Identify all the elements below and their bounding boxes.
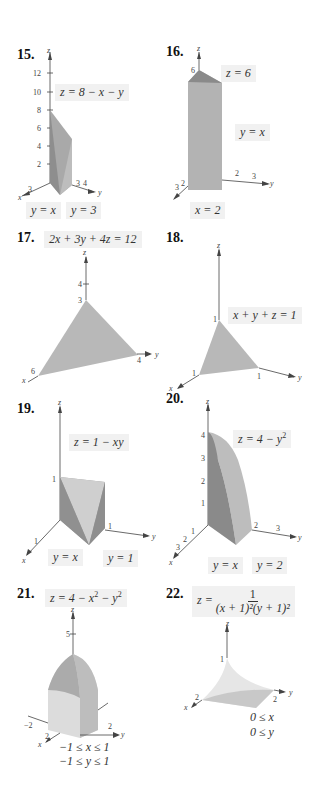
svg-text:3: 3 (201, 454, 205, 463)
svg-text:x: x (17, 193, 22, 202)
equation-label: 2x + 3y + 4z = 12 (44, 231, 142, 248)
svg-text:2: 2 (181, 179, 185, 188)
svg-text:x: x (37, 740, 42, 749)
svg-text:1: 1 (52, 475, 56, 484)
svg-text:5: 5 (66, 630, 70, 639)
svg-text:z: z (57, 398, 62, 407)
svg-text:6: 6 (37, 124, 41, 133)
svg-text:2: 2 (108, 722, 112, 731)
figure-19: 19. z 1 1 y 1 x z = 1 − xy y = x y = 1 (0, 400, 156, 580)
svg-text:3: 3 (276, 524, 280, 533)
svg-text:3: 3 (76, 179, 80, 188)
svg-text:6: 6 (31, 367, 35, 376)
svg-text:x: x (183, 703, 188, 712)
svg-text:3: 3 (252, 172, 256, 181)
svg-text:1: 1 (213, 315, 217, 324)
constraint-label: 0 ≤ x (250, 710, 274, 725)
svg-text:y: y (97, 188, 102, 197)
solid-plot: 6 z 2 3 y 2 3 (156, 0, 312, 200)
svg-text:z: z (225, 619, 230, 628)
figure-16: 16. 6 z 2 3 y 2 3 z = 6 y = x (156, 0, 312, 200)
svg-text:x: x (21, 376, 26, 385)
svg-text:y: y (297, 533, 302, 542)
svg-text:2: 2 (37, 160, 41, 169)
constraint-label: −1 ≤ x ≤ 1 (59, 740, 110, 755)
boundary-label: y = 3 (66, 202, 101, 219)
figure-18: 18. z 1 1 y 1 x x + y + z = 1 (156, 230, 312, 380)
svg-text:z: z (82, 248, 87, 257)
solid-plot: z 4 3 4 y 6 x (0, 230, 156, 380)
svg-text:4: 4 (37, 142, 41, 151)
svg-text:10: 10 (33, 88, 41, 97)
svg-text:2: 2 (201, 477, 205, 486)
svg-text:6: 6 (191, 66, 195, 75)
figure-22: 22. z 1 2 y 2 x z = 1(x + 1)²(y + 1)² 0 … (156, 580, 312, 801)
boundary-label: y = x (208, 557, 243, 574)
figure-21: 21. z 5 −2 2 y 2 x z = 4 − x2 − y2 −1 ≤ … (0, 580, 156, 801)
svg-text:2: 2 (273, 695, 277, 704)
constraint-label: −1 ≤ y ≤ 1 (59, 754, 110, 769)
boundary-label: y = 2 (252, 557, 287, 574)
svg-text:2: 2 (254, 521, 258, 530)
svg-text:1: 1 (108, 522, 112, 531)
svg-text:x: x (21, 556, 26, 565)
svg-text:1: 1 (201, 499, 205, 508)
svg-text:y: y (120, 730, 125, 739)
svg-text:x: x (168, 558, 173, 567)
boundary-label: y = 1 (103, 550, 138, 567)
boundary-label: x = 2 (190, 202, 225, 219)
svg-text:2: 2 (235, 169, 239, 178)
svg-text:1: 1 (191, 527, 195, 536)
svg-text:2: 2 (45, 732, 49, 741)
figure-20: 20. z 4 3 2 1 2 3 y 1 2 3 x z = 4 − y2 y… (156, 380, 312, 580)
svg-text:2: 2 (195, 693, 199, 702)
svg-text:3: 3 (175, 183, 179, 192)
svg-text:4: 4 (201, 431, 205, 440)
svg-text:1: 1 (34, 537, 38, 546)
svg-text:1: 1 (192, 369, 196, 378)
svg-text:y: y (288, 688, 293, 697)
solid-plot: z 4 3 2 1 2 3 y 1 2 3 x (156, 380, 312, 580)
svg-text:z: z (205, 397, 210, 406)
equation-label: z = 4 − y2 (233, 430, 291, 448)
equation-label: z = 1 − xy (69, 434, 129, 451)
svg-text:12: 12 (33, 69, 41, 78)
svg-text:1: 1 (220, 655, 224, 664)
equation-label: z = 6 (221, 65, 256, 82)
boundary-label: y = x (48, 549, 83, 566)
svg-text:4: 4 (137, 356, 141, 365)
svg-text:y: y (269, 179, 274, 188)
boundary-label: y = x (26, 202, 61, 219)
figure-17: 17. z 4 3 4 y 6 x 2x + 3y + 4z = 12 (0, 230, 156, 380)
svg-text:2: 2 (183, 535, 187, 544)
svg-text:3: 3 (176, 543, 180, 552)
figure-15: 15. 2 4 6 8 10 12 z 3 x 3 4 y z = 8 − x … (0, 0, 156, 200)
svg-text:z: z (196, 44, 201, 53)
boundary-label: y = x (235, 124, 270, 141)
solid-plot: z 1 1 y 1 x (156, 230, 312, 380)
equation-label: z = 1(x + 1)²(y + 1)² (192, 586, 295, 617)
svg-text:−2: −2 (24, 721, 33, 730)
svg-text:z: z (216, 241, 221, 250)
equation-label: z = 4 − x2 − y2 (45, 589, 127, 607)
svg-text:3: 3 (28, 185, 32, 194)
svg-text:4: 4 (78, 280, 82, 289)
svg-text:3: 3 (78, 296, 82, 305)
equation-label: z = 8 − x − y (55, 84, 129, 101)
constraint-label: 0 ≤ y (250, 725, 274, 740)
svg-text:8: 8 (37, 106, 41, 115)
equation-label: x + y + z = 1 (228, 307, 302, 324)
svg-text:4: 4 (83, 179, 87, 188)
